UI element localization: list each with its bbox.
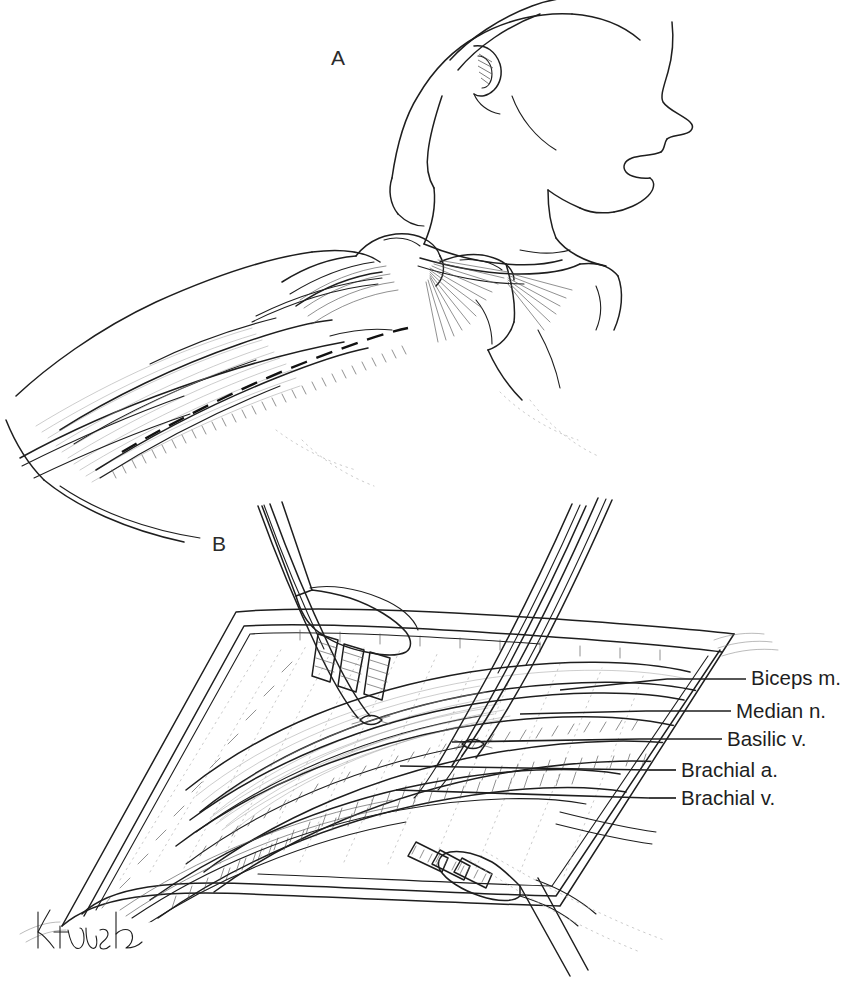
panel-letter-b: B: [212, 532, 227, 556]
brachial-vein: [132, 799, 586, 930]
figure-artwork: .ln { fill:none; stroke:#1e1e1e; stroke-…: [0, 0, 857, 994]
head-profile: [390, 0, 692, 266]
callout-label-brachial-a: Brachial a.: [681, 760, 778, 781]
callout-label-median-n: Median n.: [736, 701, 826, 722]
vessel-loops: [414, 498, 612, 798]
panel-letter-a: A: [331, 46, 346, 70]
panel-b-artwork: [20, 498, 778, 976]
callout-label-brachial-v: Brachial v.: [681, 788, 775, 809]
panel-a-artwork: [6, 0, 692, 542]
anatomical-figure: .ln { fill:none; stroke:#1e1e1e; stroke-…: [0, 0, 857, 994]
median-nerve: [190, 693, 684, 832]
wound-margins: [62, 609, 734, 926]
callout-label-basilic-v: Basilic v.: [727, 729, 806, 750]
vessel-loops-secondary: [258, 504, 370, 718]
incision-line: [122, 328, 408, 452]
callout-label-biceps-m: Biceps m.: [751, 668, 841, 689]
upper-arm: [6, 234, 572, 542]
rake-retractor-upper: [262, 502, 418, 700]
